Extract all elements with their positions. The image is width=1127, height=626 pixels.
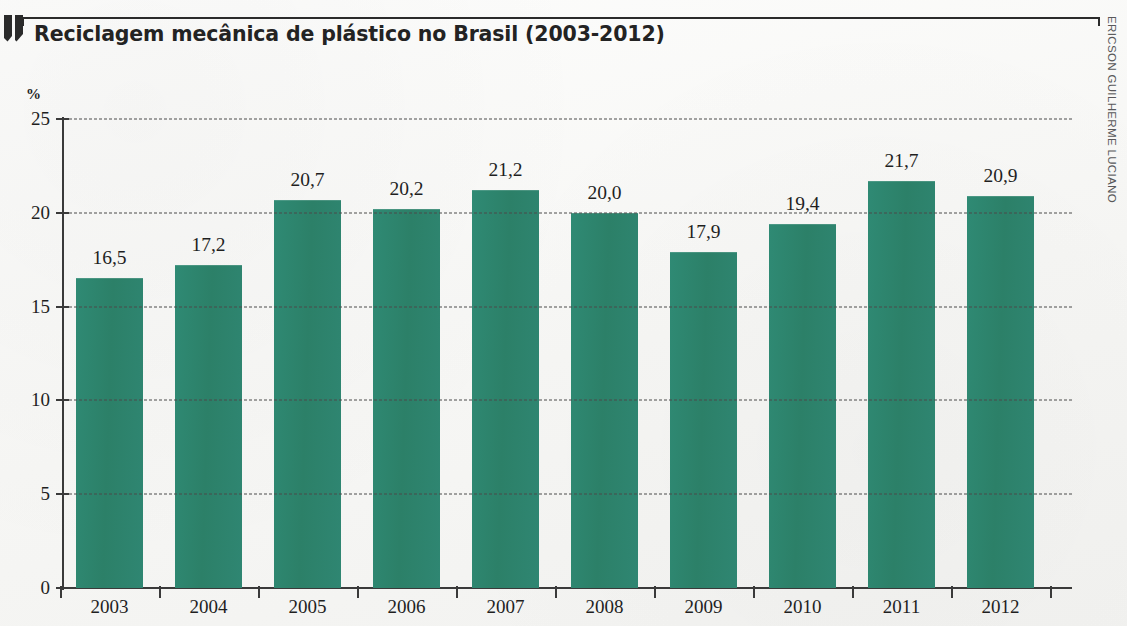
bar-2007[interactable] xyxy=(472,190,539,588)
bar-value-label: 21,2 xyxy=(456,159,555,181)
header-rule-right-cap xyxy=(1098,17,1100,26)
bar-2005[interactable] xyxy=(274,200,341,588)
page-title: Reciclagem mecânica de plástico no Brasi… xyxy=(34,22,665,46)
y-axis-tick-label: 20 xyxy=(4,202,50,224)
gridline xyxy=(69,306,1072,307)
bar-2009[interactable] xyxy=(670,252,737,588)
bar-2004[interactable] xyxy=(175,265,242,588)
bar-2003[interactable] xyxy=(76,278,143,588)
x-axis-tick-label-2007: 2007 xyxy=(456,596,555,618)
y-axis-tick-mark xyxy=(56,212,69,214)
bar-value-label: 20,9 xyxy=(951,165,1050,187)
gridline xyxy=(69,212,1072,213)
bar-value-label: 16,5 xyxy=(60,247,159,269)
bar-2006[interactable] xyxy=(373,209,440,588)
bar-2012[interactable] xyxy=(967,196,1034,588)
x-axis-tick-label-2011: 2011 xyxy=(852,596,951,618)
bar-value-label: 17,9 xyxy=(654,221,753,243)
y-axis-tick-mark xyxy=(56,493,69,495)
x-axis-tick-label-2009: 2009 xyxy=(654,596,753,618)
y-axis-line xyxy=(62,117,64,590)
x-axis-tick-label-2006: 2006 xyxy=(357,596,456,618)
y-axis-tick-mark xyxy=(56,399,69,401)
y-axis-tick-mark xyxy=(56,118,69,120)
y-axis-tick-mark xyxy=(56,306,69,308)
bar-value-label: 17,2 xyxy=(159,234,258,256)
y-axis-tick-label: 15 xyxy=(4,296,50,318)
gridline xyxy=(69,494,1072,495)
y-axis-tick-label: 10 xyxy=(4,389,50,411)
x-axis-tick-label-2004: 2004 xyxy=(159,596,258,618)
x-axis-tick-mark xyxy=(1050,586,1052,598)
y-axis-tick-label: 5 xyxy=(4,483,50,505)
x-axis-tick-label-2012: 2012 xyxy=(951,596,1050,618)
image-credit-text: ERICSON GUILHERME LUCIANO xyxy=(1106,16,1118,203)
header-divider-rule xyxy=(22,17,1100,19)
bar-value-label: 21,7 xyxy=(852,150,951,172)
bar-chart-plot: % 0510152025 16,517,220,720,221,220,017,… xyxy=(0,0,1127,626)
x-axis-tick-label-2005: 2005 xyxy=(258,596,357,618)
bar-value-label: 20,0 xyxy=(555,182,654,204)
angular-bracket-logo-icon xyxy=(3,14,29,47)
bar-value-label: 20,7 xyxy=(258,169,357,191)
y-axis-unit-label: % xyxy=(26,86,41,103)
bar-value-label: 20,2 xyxy=(357,178,456,200)
y-axis-tick-mark xyxy=(56,587,69,589)
gridline xyxy=(69,400,1072,401)
chart-page: Reciclagem mecânica de plástico no Brasi… xyxy=(0,0,1127,626)
x-axis-tick-label-2010: 2010 xyxy=(753,596,852,618)
x-axis-tick-label-2008: 2008 xyxy=(555,596,654,618)
y-axis-tick-label: 0 xyxy=(4,577,50,599)
bar-2011[interactable] xyxy=(868,181,935,588)
image-credit: ERICSON GUILHERME LUCIANO xyxy=(1101,16,1123,256)
y-axis-tick-label: 25 xyxy=(4,108,50,130)
bar-2010[interactable] xyxy=(769,224,836,588)
gridline xyxy=(69,119,1072,120)
x-axis-tick-label-2003: 2003 xyxy=(60,596,159,618)
